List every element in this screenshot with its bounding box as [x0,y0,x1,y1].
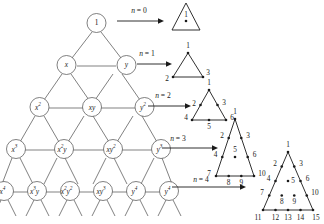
triangle-n4-label-2: 2 [273,159,277,168]
triangle-n3-label-3: 3 [246,131,250,140]
triangle-n4-point-14 [299,209,302,212]
svg-text:y: y [124,60,129,69]
arrow-n0: n = 0 [117,6,164,24]
lattice-node-x3y: x3y [28,182,47,201]
triangle-n4-label-9: 9 [292,197,296,206]
triangle-n3-point-10 [253,175,256,178]
triangle-n2-point-1 [208,89,211,92]
lattice-node-y4: y4 [127,182,146,201]
triangle-n4-label-8: 8 [280,197,284,206]
triangle-n1-point-1 [187,52,190,55]
triangle-n3-point-3 [240,137,243,140]
triangle-n3-label-8: 8 [227,178,231,187]
triangle-n4-point-11 [262,209,265,212]
svg-text:n = 2: n = 2 [155,91,171,100]
triangle-n4-point-7 [268,194,271,197]
triangle-n4-point-2 [280,165,283,168]
lattice-node-xy: xy [83,98,102,117]
lattice-node-y2: y2 [135,98,154,117]
triangle-n2-point-6 [225,119,228,122]
lattice-node-y4-edge: y4 [160,182,179,201]
triangle-n3-label-6: 6 [253,150,257,159]
lattice-node-x2y: x2y [55,140,74,159]
triangle-n2-label-1: 1 [207,78,211,87]
triangle-n3-label-5: 5 [233,145,237,154]
triangle-n4-label-11: 11 [254,213,261,222]
triangle-n0-point-1 [185,20,188,23]
triangle-n2-point-2 [199,104,202,107]
triangle-n4-point-1 [287,151,290,154]
triangle-n4-label-10: 10 [311,188,319,197]
triangle-n4-point-13 [287,209,290,212]
triangle-n2-label-5: 5 [207,122,211,131]
triangle-n4-label-15: 15 [312,213,320,222]
triangle-n4-label-3: 3 [299,159,303,168]
triangle-n3: 1 2 3 4 5 6 7 8 9 10 [207,107,266,187]
triangle-n2-label-2: 2 [192,99,196,108]
svg-text:n = 0: n = 0 [131,6,147,15]
lattice-node-x2y2: x2y2 [60,182,80,201]
triangle-n4-label-1: 1 [286,140,290,149]
triangle-n3-point-7 [215,175,218,178]
triangle-n4-point-5 [287,180,290,183]
arrow-n1: n = 1 [137,49,172,67]
triangle-n0: 1 [172,3,200,30]
lattice-node-x2: x2 [30,98,49,117]
lattice-node-xy2: xy2 [104,140,123,159]
lattice-node-y: y [117,56,136,75]
triangle-n4-point-6 [299,180,302,183]
triangle-n3-label-2: 2 [220,131,224,140]
triangle-n0-label-1: 1 [184,10,188,19]
triangle-n1-point-3 [202,76,205,79]
triangle-n3-label-9: 9 [239,178,243,187]
triangle-n1-label-3: 3 [206,68,210,77]
triangle-n4: 1 2 3 4 5 6 7 8 9 10 11 12 13 14 15 [254,140,320,222]
triangle-n4-label-14: 14 [297,213,305,222]
triangle-n1-label-2: 2 [165,74,169,83]
triangle-n4-label-13: 13 [284,213,292,222]
triangle-n3-point-2 [227,137,230,140]
triangle-n3-point-6 [246,156,249,159]
triangle-n3-label-10: 10 [258,169,266,178]
triangle-n4-label-12: 12 [272,213,280,222]
triangle-n4-label-4: 4 [267,174,271,183]
triangle-n4-point-15 [312,209,315,212]
triangle-n3-point-4 [221,156,224,159]
triangle-n2-label-3: 3 [222,98,226,107]
figure-svg: 1 x y x2 xy y2 [0,0,324,224]
svg-text:xy: xy [88,103,96,112]
triangle-n2: 1 2 3 4 5 6 [184,78,234,131]
lattice-node-1: 1 [87,14,106,33]
triangle-n4-label-7: 7 [260,188,264,197]
triangle-n3-label-4: 4 [214,150,218,159]
triangle-n3-point-1 [234,118,237,121]
triangle-n4-point-10 [305,194,308,197]
triangle-n1-label-1: 1 [186,41,190,50]
arrow-n2: n = 2 [148,91,191,109]
lattice-node-x4: x4 [0,182,14,201]
lattice-node-y3: y3 [152,140,171,159]
triangle-n3-point-5 [234,156,237,159]
lattice-node-x3: x3 [7,140,26,159]
monomial-lattice: 1 x y x2 xy y2 [0,14,181,217]
lattice-node-xy3: xy3 [94,182,113,201]
svg-text:n = 1: n = 1 [139,49,155,58]
figure-canvas: 1 x y x2 xy y2 [0,0,324,224]
triangle-n4-point-4 [274,180,277,183]
svg-text:1: 1 [95,18,99,27]
triangle-n2-point-3 [216,104,219,107]
triangle-n4-label-5: 5 [291,176,295,185]
triangle-n3-label-7: 7 [207,169,211,178]
triangle-n2-point-4 [191,119,194,122]
triangle-n3-label-1: 1 [233,107,237,116]
triangle-n4-point-12 [274,209,277,212]
lattice-edges [0,32,181,216]
lattice-node-x: x [57,56,76,75]
triangle-n2-label-4: 4 [184,113,188,122]
svg-text:x: x [64,60,69,69]
arrow-n3: n = 3 [162,134,218,151]
triangle-n1: 1 2 3 [165,41,210,83]
triangle-n4-point-3 [293,165,296,168]
triangle-n4-label-6: 6 [306,174,310,183]
svg-text:n = 3: n = 3 [170,134,186,143]
